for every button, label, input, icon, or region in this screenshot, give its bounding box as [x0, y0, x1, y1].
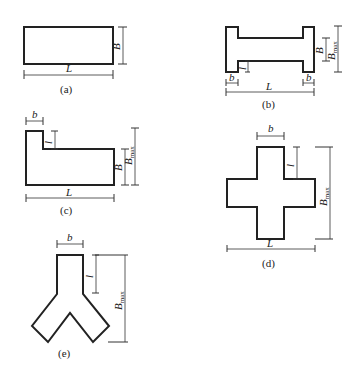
svg-text:b: b	[229, 71, 235, 83]
svg-text:Bmax: Bmax	[317, 187, 331, 206]
panel-d: b l Bmax L (d)	[227, 122, 333, 270]
svg-text:b: b	[268, 122, 274, 134]
dim-L-b: L	[226, 80, 314, 96]
svg-text:Bmax: Bmax	[112, 291, 126, 310]
svg-text:l: l	[284, 164, 296, 167]
dim-b-left: b	[226, 71, 238, 86]
cross-shape-outline	[227, 147, 315, 239]
panel-a: L B (a)	[24, 27, 127, 96]
dim-l-d: l	[284, 147, 300, 179]
y-shape-outline	[32, 255, 109, 342]
panel-e: b l Bmax (e)	[32, 231, 128, 360]
svg-text:Bmax: Bmax	[325, 41, 339, 60]
svg-text:l: l	[42, 141, 54, 144]
dim-l-c: l	[42, 131, 58, 149]
dim-Bmax-b: Bmax	[325, 26, 342, 72]
svg-text:B: B	[313, 47, 325, 54]
svg-text:B: B	[110, 43, 122, 50]
l-shape-outline	[26, 131, 114, 185]
dim-Bmax-d: Bmax	[315, 147, 333, 239]
caption-d: (d)	[262, 257, 275, 270]
svg-text:b: b	[67, 231, 73, 243]
caption-b: (b)	[262, 98, 275, 111]
dim-b-c: b	[26, 108, 43, 125]
building-plan-shapes-diagram: L B (a) l b b	[0, 0, 356, 369]
svg-text:l: l	[83, 275, 95, 278]
svg-text:L: L	[265, 80, 272, 92]
svg-text:L: L	[65, 62, 72, 74]
rectangle-outline	[24, 27, 113, 64]
dim-b-right: b	[303, 71, 314, 86]
panel-c: b l B Bmax L (c)	[26, 108, 139, 217]
svg-text:b: b	[32, 108, 38, 120]
dim-b-d: b	[257, 122, 284, 140]
dim-l-e: l	[83, 255, 99, 293]
svg-text:L: L	[266, 237, 273, 249]
caption-a: (a)	[60, 83, 73, 96]
i-shape-outline	[226, 27, 314, 72]
caption-e: (e)	[58, 347, 71, 360]
dim-Bmax-c: Bmax	[122, 128, 139, 185]
svg-text:l: l	[236, 67, 248, 70]
caption-c: (c)	[60, 204, 73, 217]
dim-L-c: L	[26, 186, 114, 202]
svg-text:b: b	[306, 71, 312, 83]
svg-text:L: L	[65, 186, 72, 198]
panel-b: l b b L B Bmax	[226, 26, 342, 111]
dim-L-d: L	[227, 237, 315, 252]
dim-Bmax-e: Bmax	[95, 255, 128, 342]
dim-b-e: b	[57, 231, 83, 248]
